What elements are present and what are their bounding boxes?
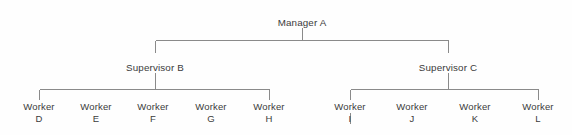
node-worker-l-role: Worker	[510, 101, 566, 113]
node-worker-d-code: D	[11, 113, 67, 125]
node-worker-i-role: Worker	[322, 101, 378, 113]
node-worker-j-role: Worker	[384, 101, 440, 113]
node-manager-a[interactable]: Manager A	[278, 17, 327, 29]
node-worker-i[interactable]: Worker I	[322, 101, 378, 124]
node-worker-d-role: Worker	[11, 101, 67, 113]
node-worker-i-code: I	[322, 113, 378, 125]
node-manager-a-label: Manager A	[278, 17, 327, 29]
node-worker-l-code: L	[510, 113, 566, 125]
node-worker-f[interactable]: Worker F	[125, 101, 181, 124]
node-worker-e[interactable]: Worker E	[68, 101, 124, 124]
node-worker-l[interactable]: Worker L	[510, 101, 566, 124]
node-worker-g-code: G	[183, 113, 239, 125]
node-worker-k-role: Worker	[447, 101, 503, 113]
node-supervisor-b[interactable]: Supervisor B	[126, 62, 184, 74]
node-supervisor-b-label: Supervisor B	[126, 62, 184, 74]
node-worker-f-code: F	[125, 113, 181, 125]
node-worker-d[interactable]: Worker D	[11, 101, 67, 124]
node-worker-e-role: Worker	[68, 101, 124, 113]
node-worker-g[interactable]: Worker G	[183, 101, 239, 124]
node-worker-h[interactable]: Worker H	[241, 101, 297, 124]
node-supervisor-c-label: Supervisor C	[419, 62, 477, 74]
node-worker-k-code: K	[447, 113, 503, 125]
node-worker-j-code: J	[384, 113, 440, 125]
node-worker-k[interactable]: Worker K	[447, 101, 503, 124]
node-worker-e-code: E	[68, 113, 124, 125]
node-worker-j[interactable]: Worker J	[384, 101, 440, 124]
node-worker-g-role: Worker	[183, 101, 239, 113]
node-worker-f-role: Worker	[125, 101, 181, 113]
node-worker-h-code: H	[241, 113, 297, 125]
node-worker-h-role: Worker	[241, 101, 297, 113]
node-supervisor-c[interactable]: Supervisor C	[419, 62, 477, 74]
org-chart: Manager A Supervisor B Supervisor C Work…	[0, 0, 572, 135]
